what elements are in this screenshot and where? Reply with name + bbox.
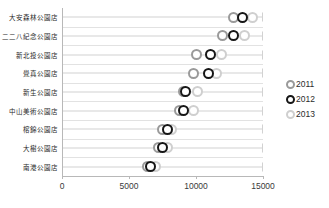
x-axis-tick-label: 0 [60,181,65,191]
data-point-2012[interactable] [180,86,191,97]
x-axis-line [62,176,264,177]
gridline-horizontal [62,101,263,102]
chart-row [62,139,263,158]
plot-area [62,8,263,176]
data-point-2013[interactable] [247,12,258,23]
chart-legend: 201120122013 [286,77,329,122]
category-label: 新生公園店 [23,87,58,97]
data-point-2013[interactable] [239,30,250,41]
data-point-2013[interactable] [192,86,203,97]
row-stem-cap [262,106,263,115]
row-stem-cap [262,13,263,22]
ring-icon-gray [286,80,295,89]
data-point-2013[interactable] [216,49,227,60]
x-axis-tick-label: 15000 [251,181,275,191]
data-point-2012[interactable] [203,68,214,79]
gridline-horizontal [62,157,263,158]
legend-item-2011[interactable]: 2011 [286,77,329,92]
data-point-2013[interactable] [188,105,199,116]
chart-row [62,120,263,139]
data-point-2012[interactable] [178,105,189,116]
data-point-2012[interactable] [205,49,216,60]
row-stem-cap [262,50,263,59]
category-label: 大安森林公園店 [9,12,58,22]
data-point-2011[interactable] [191,49,202,60]
category-label: 大樹公園店 [23,143,58,153]
row-stem-cap [262,162,263,171]
gridline-horizontal [62,139,263,140]
data-point-2012[interactable] [237,12,248,23]
chart-row [62,27,263,46]
gridline-horizontal [62,83,263,84]
ring-icon-light [286,110,295,119]
row-stem-line [62,73,263,74]
row-stem-cap [262,69,263,78]
category-label: 南港公園店 [23,162,58,172]
chart-row [62,101,263,120]
category-axis-labels: 大安森林公園店二二八紀念公園店新北投公園店覺真公園店新生公園店中山美術公園店榕錦… [0,8,60,176]
category-label: 榕錦公園店 [23,124,58,134]
x-axis-tick-label: 10000 [184,181,208,191]
row-stem-line [62,166,263,167]
category-label: 二二八紀念公園店 [2,31,58,41]
x-axis-tick [129,176,130,179]
legend-item-2012[interactable]: 2012 [286,92,329,107]
chart-row [62,64,263,83]
gridline-horizontal [62,27,263,28]
gridline-horizontal [62,45,263,46]
legend-label: 2013 [296,110,315,119]
row-stem-line [62,110,263,111]
category-label: 中山美術公園店 [9,106,58,116]
row-stem-cap [262,31,263,40]
chart-row [62,157,263,176]
chart-row [62,8,263,27]
chart-row [62,45,263,64]
x-axis-tick [263,176,264,179]
legend-label: 2011 [296,80,314,89]
category-label: 覺真公園店 [23,68,58,78]
row-stem-line [62,91,263,92]
row-stem-cap [262,125,263,134]
gridline-horizontal [62,64,263,65]
data-point-2011[interactable] [188,68,199,79]
x-axis-tick [196,176,197,179]
row-stem-line [62,54,263,55]
gridline-horizontal [62,120,263,121]
row-stem-cap [262,143,263,152]
y-axis-line [62,8,63,176]
data-point-2012[interactable] [228,30,239,41]
x-axis-tick-label: 5000 [120,181,139,191]
x-axis-tick [62,176,63,179]
row-stem-cap [262,87,263,96]
chart-row [62,83,263,102]
legend-label: 2012 [296,95,315,104]
ring-icon-black [286,95,295,104]
category-label: 新北投公園店 [16,50,58,60]
chart-container: 大安森林公園店二二八紀念公園店新北投公園店覺真公園店新生公園店中山美術公園店榕錦… [0,0,329,208]
data-point-2011[interactable] [217,30,228,41]
legend-item-2013[interactable]: 2013 [286,107,329,122]
